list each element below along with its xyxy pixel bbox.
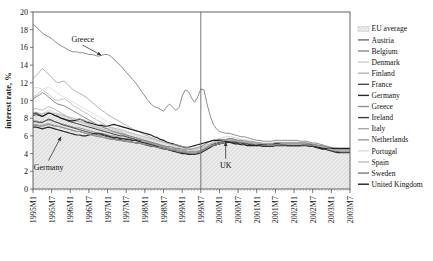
x-tick-label: 1998M7 bbox=[160, 196, 169, 223]
x-tick-label: 2003M7 bbox=[346, 196, 355, 223]
x-tick-label: 1998M1 bbox=[141, 196, 150, 223]
x-tick-label: 2003M1 bbox=[327, 196, 336, 223]
y-tick-label: 12 bbox=[20, 79, 28, 88]
x-tick-label: 2000M1 bbox=[215, 196, 224, 223]
legend-label-portugal: Portugal bbox=[372, 147, 398, 156]
y-tick-label: 8 bbox=[24, 114, 28, 123]
y-tick-label: 18 bbox=[20, 26, 28, 35]
y-tick-label: 4 bbox=[24, 150, 28, 159]
legend-label-italy: Italy bbox=[372, 124, 386, 133]
y-tick-label: 20 bbox=[20, 8, 28, 17]
legend-label-germany: Germany bbox=[372, 91, 400, 100]
x-tick-label: 2002M1 bbox=[290, 196, 299, 223]
y-tick-label: 2 bbox=[24, 167, 28, 176]
x-tick-label: 1996M7 bbox=[85, 196, 94, 223]
annotation-label-uk: UK bbox=[220, 161, 232, 170]
x-tick-label: 1996M1 bbox=[66, 196, 75, 223]
x-tick-label: 1995M1 bbox=[29, 196, 38, 223]
y-tick-label: 0 bbox=[24, 185, 28, 194]
y-tick-label: 10 bbox=[20, 97, 28, 106]
y-tick-label: 16 bbox=[20, 43, 28, 52]
chart-svg: 02468101214161820interest rate, %1995M11… bbox=[0, 0, 433, 261]
legend-label-finland: Finland bbox=[372, 69, 395, 78]
annotation-label-germany: Germany bbox=[34, 163, 64, 172]
x-tick-label: 1997M7 bbox=[122, 196, 131, 223]
interest-rate-chart: 02468101214161820interest rate, %1995M11… bbox=[0, 0, 433, 261]
x-tick-label: 1997M1 bbox=[104, 196, 113, 223]
x-tick-label: 2001M7 bbox=[271, 196, 280, 223]
x-tick-label: 2000M7 bbox=[234, 196, 243, 223]
legend-label-belgium: Belgium bbox=[372, 47, 398, 56]
legend-swatch-eu-average bbox=[358, 27, 369, 32]
y-axis-title: interest rate, % bbox=[3, 72, 13, 129]
x-tick-label: 2001M1 bbox=[253, 196, 262, 223]
annotation-label-greece: Greece bbox=[71, 35, 94, 44]
legend-label-spain: Spain bbox=[372, 158, 390, 167]
legend-label-netherlands: Netherlands bbox=[372, 135, 409, 144]
legend-label-denmark: Denmark bbox=[372, 58, 400, 67]
legend-label-greece: Greece bbox=[372, 102, 394, 111]
y-tick-label: 6 bbox=[24, 132, 28, 141]
legend-label-austria: Austria bbox=[372, 36, 395, 45]
legend-label-eu-average: EU average bbox=[372, 24, 408, 33]
x-tick-label: 2002M7 bbox=[309, 196, 318, 223]
legend-label-france: France bbox=[372, 80, 393, 89]
x-tick-label: 1995M7 bbox=[48, 196, 57, 223]
legend-label-sweden: Sweden bbox=[372, 169, 396, 178]
y-tick-label: 14 bbox=[20, 61, 28, 70]
legend-label-united-kingdom: United Kingdom bbox=[372, 180, 423, 189]
x-tick-label: 1999M1 bbox=[178, 196, 187, 223]
x-tick-label: 1999M7 bbox=[197, 196, 206, 223]
legend-label-ireland: Ireland bbox=[372, 113, 394, 122]
